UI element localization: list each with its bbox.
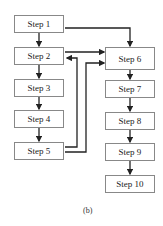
step-4-box: Step 4 xyxy=(14,110,64,128)
step-6-box: Step 6 xyxy=(105,47,155,70)
step-3-box: Step 3 xyxy=(14,79,64,97)
step-8-box: Step 8 xyxy=(105,112,155,130)
step-9-box: Step 9 xyxy=(105,143,155,161)
step-7-box: Step 7 xyxy=(105,80,155,98)
step-2-box: Step 2 xyxy=(14,47,64,65)
step-1-box: Step 1 xyxy=(14,15,64,33)
figure-caption: (b) xyxy=(83,206,92,215)
step-5-box: Step 5 xyxy=(14,142,64,160)
step-10-box: Step 10 xyxy=(105,175,155,193)
